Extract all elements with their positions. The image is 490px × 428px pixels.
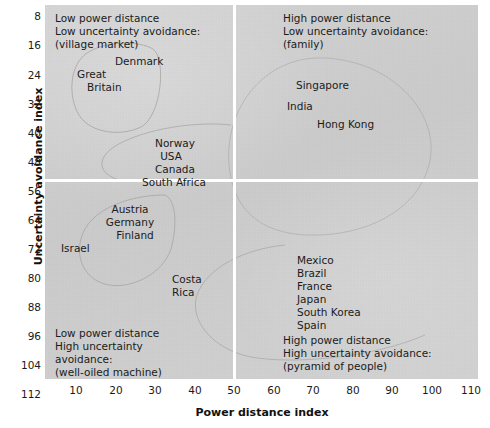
quadrant-label-top-left-line2: Low uncertainty avoidance:: [55, 25, 200, 38]
y-tick-112: 112: [5, 388, 41, 400]
y-tick-16: 16: [5, 39, 41, 51]
country-label-rica: Rica: [172, 286, 194, 299]
country-label-japan: Japan: [297, 293, 326, 306]
y-tick-8: 8: [5, 10, 41, 22]
plot-area: Low power distance Low uncertainty avoid…: [45, 5, 478, 379]
y-tick-80: 80: [5, 272, 41, 284]
country-label-great: Great: [77, 68, 106, 81]
x-tick-110: 110: [451, 384, 490, 396]
y-tick-24: 24: [5, 69, 41, 81]
country-label-austria: Austria: [111, 203, 148, 216]
country-label-france: France: [297, 280, 332, 293]
quadrant-label-bottom-left-line4: (well-oiled machine): [55, 366, 162, 379]
quadrant-label-bottom-left-line3: avoidance:: [55, 353, 113, 366]
y-tick-96: 96: [5, 330, 41, 342]
y-tick-72: 72: [5, 243, 41, 255]
quadrant-label-bottom-right-line2: High uncertainty avoidance:: [283, 347, 432, 360]
x-tick-90: 90: [372, 384, 412, 396]
quadrant-label-bottom-left-line2: High uncertainty: [55, 340, 143, 353]
quadrant-label-bottom-right-line3: (pyramid of people): [283, 360, 387, 373]
y-tick-88: 88: [5, 301, 41, 313]
y-tick-64: 64: [5, 214, 41, 226]
y-tick-104: 104: [5, 359, 41, 371]
y-tick-40: 40: [5, 127, 41, 139]
country-label-germany: Germany: [106, 216, 154, 229]
quadrant-label-top-left-line1: Low power distance: [55, 12, 159, 25]
x-tick-30: 30: [135, 384, 175, 396]
country-label-finland: Finland: [116, 229, 154, 242]
country-label-india: India: [287, 100, 313, 113]
country-label-costa: Costa: [172, 273, 202, 286]
country-label-mexico: Mexico: [297, 254, 334, 267]
quadrant-label-top-right-line2: Low uncertainty avoidance:: [283, 25, 428, 38]
country-label-brazil: Brazil: [297, 267, 326, 280]
chart-root: Uncertainty avoidance index 8 16 24 32 4…: [0, 0, 490, 428]
x-tick-40: 40: [175, 384, 215, 396]
country-label-denmark: Denmark: [115, 55, 163, 68]
y-tick-32: 32: [5, 98, 41, 110]
quadrant-label-top-left-line3: (village market): [55, 38, 138, 51]
x-tick-70: 70: [293, 384, 333, 396]
country-label-singapore: Singapore: [296, 79, 349, 92]
x-tick-20: 20: [96, 384, 136, 396]
x-tick-80: 80: [333, 384, 373, 396]
quadrant-label-bottom-right-line1: High power distance: [283, 334, 391, 347]
country-label-spain: Spain: [297, 319, 326, 332]
x-axis-title: Power distance index: [45, 406, 479, 419]
quadrant-label-bottom-left-line1: Low power distance: [55, 327, 159, 340]
cluster-outlines: [45, 5, 478, 379]
country-label-south-africa: South Africa: [142, 176, 206, 189]
y-axis-ticks: 8 16 24 32 40 48 56 64 72 80 88 96 104 1…: [0, 0, 41, 428]
quadrant-label-top-right-line3: (family): [283, 38, 324, 51]
x-tick-60: 60: [254, 384, 294, 396]
x-tick-100: 100: [412, 384, 452, 396]
country-label-hong-kong: Hong Kong: [317, 118, 374, 131]
country-label-britain: Britain: [87, 81, 122, 94]
country-label-canada: Canada: [155, 163, 195, 176]
country-label-south-korea: South Korea: [297, 306, 361, 319]
country-label-israel: Israel: [61, 242, 90, 255]
quadrant-label-top-right-line1: High power distance: [283, 12, 391, 25]
x-tick-50: 50: [214, 384, 254, 396]
y-tick-56: 56: [5, 185, 41, 197]
x-tick-10: 10: [56, 384, 96, 396]
y-tick-48: 48: [5, 156, 41, 168]
quadrant-divider-vertical: [233, 5, 236, 379]
country-label-norway: Norway: [155, 137, 195, 150]
plot-texture: [45, 5, 478, 379]
country-label-usa: USA: [160, 150, 182, 163]
quadrant-divider-horizontal: [45, 179, 478, 182]
